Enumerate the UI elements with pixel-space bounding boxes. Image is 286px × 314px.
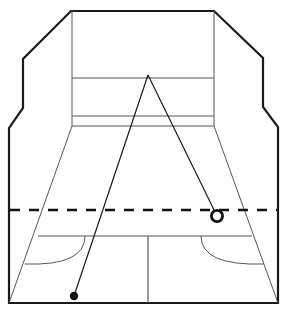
court-diagram	[0, 0, 286, 314]
ball-start-marker	[70, 292, 78, 300]
court-outline	[9, 11, 278, 303]
court-diagram-canvas	[0, 0, 286, 314]
ball-end-marker	[211, 210, 222, 221]
